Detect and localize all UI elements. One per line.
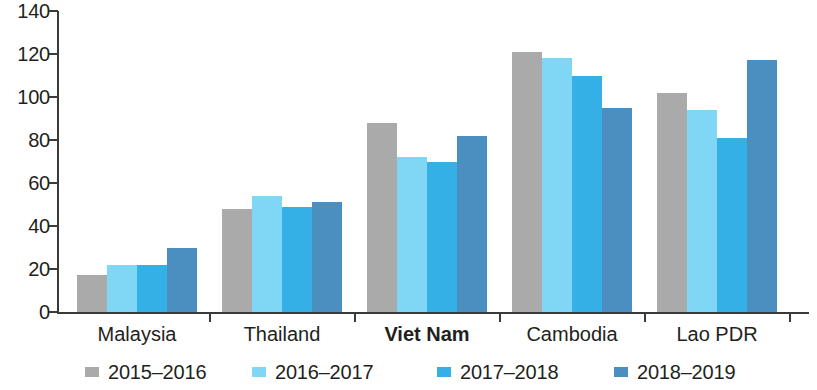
bar: [77, 275, 107, 312]
legend-label: 2016–2017: [275, 360, 373, 384]
x-axis-category-label: Cambodia: [512, 322, 632, 346]
legend-item[interactable]: 2015–2016: [85, 360, 206, 384]
y-axis-tick: [49, 139, 58, 141]
plot-area: [57, 11, 809, 313]
y-axis-tick-label: 80: [4, 130, 50, 150]
legend-item[interactable]: 2017–2018: [437, 360, 558, 384]
legend-label: 2015–2016: [108, 360, 206, 384]
x-axis-line: [57, 312, 809, 314]
y-axis-tick: [49, 53, 58, 55]
x-axis-tick: [209, 313, 211, 322]
bar: [282, 207, 312, 312]
x-axis-category-label: Thailand: [222, 322, 342, 346]
y-axis-tick: [49, 225, 58, 227]
x-axis-tick: [644, 313, 646, 322]
bar: [747, 60, 777, 312]
bar-group: [222, 11, 342, 312]
y-axis-tick-label: 140: [4, 1, 50, 21]
legend-item[interactable]: 2018–2019: [614, 360, 735, 384]
y-axis-tick: [49, 10, 58, 12]
bar: [167, 248, 197, 313]
legend-swatch-icon: [85, 367, 99, 377]
bar: [137, 265, 167, 312]
bar-group: [657, 11, 777, 312]
x-axis-category-label: Viet Nam: [367, 322, 487, 346]
y-axis-tick-label: 100: [4, 87, 50, 107]
x-axis-tick: [789, 313, 791, 322]
x-axis-category-label: Malaysia: [77, 322, 197, 346]
legend-swatch-icon: [437, 367, 451, 377]
bar: [367, 123, 397, 312]
bar: [542, 58, 572, 312]
bar: [397, 157, 427, 312]
bar: [657, 93, 687, 312]
bar-chart: 140120100806040200 MalaysiaThailandViet …: [0, 0, 817, 390]
y-axis-tick: [49, 268, 58, 270]
bar-group: [512, 11, 632, 312]
x-axis-tick: [354, 313, 356, 322]
bar: [572, 76, 602, 313]
bar: [717, 138, 747, 312]
bar: [107, 265, 137, 312]
legend-label: 2017–2018: [460, 360, 558, 384]
chart-legend: 2015–20162016–20172017–20182018–2019: [0, 360, 817, 390]
bar: [222, 209, 252, 312]
y-axis-labels: 140120100806040200: [0, 11, 50, 313]
bar: [312, 202, 342, 312]
legend-label: 2018–2019: [637, 360, 735, 384]
y-axis-tick-label: 120: [4, 44, 50, 64]
bar: [602, 108, 632, 312]
legend-swatch-icon: [614, 367, 628, 377]
y-axis-tick-label: 20: [4, 259, 50, 279]
legend-item[interactable]: 2016–2017: [252, 360, 373, 384]
bar: [687, 110, 717, 312]
bar: [427, 162, 457, 313]
bar-group: [77, 11, 197, 312]
y-axis-tick: [49, 96, 58, 98]
y-axis-tick: [49, 182, 58, 184]
x-axis-tick: [499, 313, 501, 322]
y-axis-tick-label: 0: [4, 302, 50, 322]
y-axis-tick-label: 40: [4, 216, 50, 236]
x-axis-category-label: Lao PDR: [657, 322, 777, 346]
legend-swatch-icon: [252, 367, 266, 377]
y-axis-tick: [49, 311, 58, 313]
bar: [512, 52, 542, 312]
bar-group: [367, 11, 487, 312]
category-labels: MalaysiaThailandViet NamCambodiaLao PDR: [57, 322, 809, 350]
bar: [252, 196, 282, 312]
bar: [457, 136, 487, 312]
y-axis-tick-label: 60: [4, 173, 50, 193]
